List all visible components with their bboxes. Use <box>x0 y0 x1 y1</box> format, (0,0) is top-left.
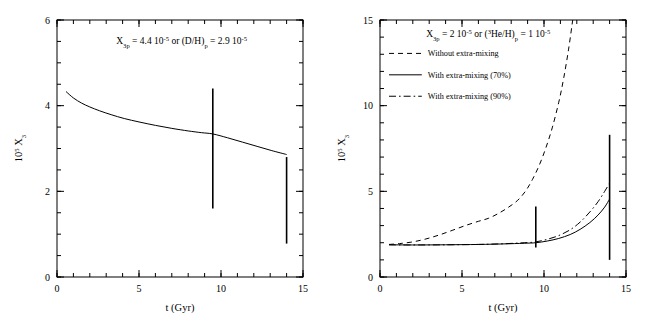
x-tick-label: 15 <box>298 283 308 294</box>
plot-frame <box>380 20 626 277</box>
y-tick-label: 10 <box>363 100 373 111</box>
x-tick-label: 15 <box>621 283 631 294</box>
x-tick-label: 10 <box>539 283 549 294</box>
x-tick-label: 10 <box>216 283 226 294</box>
y-tick-label: 4 <box>45 100 50 111</box>
chart-panel-left: 0510150246t (Gyr)105 X3X3p = 4.4 10-5 or… <box>0 0 323 321</box>
chart-annotation: X3p = 4.4 10-5 or (D/H)p = 2.9 10-5 <box>116 34 248 48</box>
y-tick-label: 6 <box>45 15 50 26</box>
chart-legend: Without extra-mixingWith extra-mixing (7… <box>389 49 511 101</box>
y-axis-label: 105 X3 <box>336 134 350 162</box>
x-tick-label: 0 <box>55 283 60 294</box>
y-tick-label: 15 <box>363 15 373 26</box>
data-series-line <box>389 199 610 245</box>
x-axis-label: t (Gyr) <box>166 302 195 314</box>
axis-ticks <box>380 20 626 277</box>
figure-two-panel-3he-evolution: 0510150246t (Gyr)105 X3X3p = 4.4 10-5 or… <box>0 0 646 321</box>
x-tick-label: 5 <box>137 283 142 294</box>
x-tick-label: 0 <box>378 283 383 294</box>
y-tick-label: 2 <box>45 186 50 197</box>
chart-panel-right: 051015051015t (Gyr)105 X3X3p = 2 10-5 or… <box>323 0 646 321</box>
legend-label: With extra-mixing (90%) <box>428 92 511 101</box>
y-axis-label: 105 X3 <box>13 134 27 162</box>
data-layer <box>66 89 287 244</box>
x-tick-label: 5 <box>460 283 465 294</box>
chart-svg-right: 051015051015t (Gyr)105 X3X3p = 2 10-5 or… <box>323 0 646 321</box>
y-tick-label: 5 <box>368 186 373 197</box>
data-series-line <box>389 183 610 245</box>
y-tick-label: 0 <box>368 272 373 283</box>
legend-label: With extra-mixing (70%) <box>428 71 511 80</box>
y-tick-label: 0 <box>45 272 50 283</box>
data-series-line <box>66 92 287 155</box>
chart-svg-left: 0510150246t (Gyr)105 X3X3p = 4.4 10-5 or… <box>0 0 323 321</box>
chart-annotation: X3p = 2 10-5 or (3He/H)p = 1 10-5 <box>426 28 551 42</box>
data-layer <box>389 20 610 260</box>
legend-label: Without extra-mixing <box>428 49 499 58</box>
x-axis-label: t (Gyr) <box>489 302 518 314</box>
